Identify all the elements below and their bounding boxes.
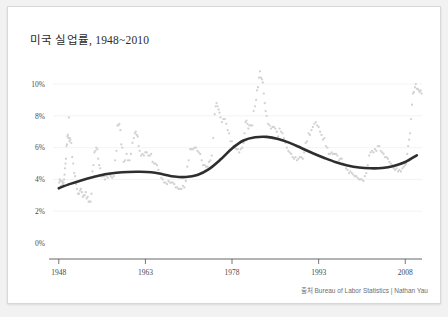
scatter-points [58,70,423,203]
unemployment-scatter-plot: 0%2%4%6%8%10% 19481963197819932008 [8,7,442,305]
y-tick-label: 8% [35,112,45,121]
y-tick-label: 6% [35,143,45,152]
axes [49,259,422,264]
x-tick-label: 1963 [138,268,153,277]
chart-figure: 미국 실업률, 1948~2010 0%2%4%6%8%10% 19481963… [0,0,448,317]
x-tick-label: 2008 [398,268,413,277]
x-tick-label: 1993 [311,268,326,277]
y-tick-label: 4% [35,175,45,184]
source-note: 출처 Bureau of Labor Statistics | Nathan Y… [301,285,428,295]
x-axis-tick-labels: 19481963197819932008 [51,268,413,277]
x-tick-label: 1948 [51,268,66,277]
x-tick-label: 1978 [225,268,240,277]
chart-frame: 미국 실업률, 1948~2010 0%2%4%6%8%10% 19481963… [7,6,441,304]
y-tick-label: 0% [35,239,45,248]
y-tick-label: 2% [35,207,45,216]
y-axis-tick-labels: 0%2%4%6%8%10% [31,80,45,248]
y-tick-label: 10% [31,80,45,89]
gridlines [53,84,422,211]
